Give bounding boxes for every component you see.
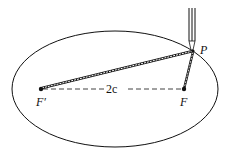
focus-f-prime-point bbox=[39, 87, 43, 91]
label-p: P bbox=[199, 43, 208, 57]
ellipse-diagram: P F′ F 2c bbox=[0, 0, 228, 156]
label-f-prime: F′ bbox=[35, 95, 46, 109]
focus-f-point bbox=[182, 87, 186, 91]
string-f-to-p bbox=[184, 52, 193, 89]
pencil-icon bbox=[189, 8, 195, 53]
string-fprime-to-p bbox=[42, 51, 193, 88]
label-2c: 2c bbox=[106, 82, 117, 96]
label-f: F bbox=[179, 95, 188, 109]
